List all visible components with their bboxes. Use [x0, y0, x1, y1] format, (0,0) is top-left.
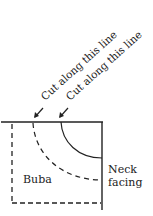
neck-cut-solid-arc: [61, 122, 102, 158]
neck-facing-label-line2: facing: [108, 176, 142, 189]
pattern-diagram: Cut along this line Cut along this line …: [0, 0, 153, 216]
arrow-icon: [34, 108, 43, 118]
buba-cut-dashed-arc: [33, 123, 102, 180]
arrow-icon: [59, 108, 68, 118]
buba-label: Buba: [23, 173, 52, 186]
neck-facing-label-line1: Neck: [108, 163, 137, 176]
